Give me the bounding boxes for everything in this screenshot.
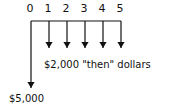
period-label-5: 5 <box>115 3 125 14</box>
periodic-flow-label: $2,000 "then" dollars <box>44 60 151 70</box>
period-label-1: 1 <box>43 3 53 14</box>
period-label-2: 2 <box>61 3 71 14</box>
period-label-0: 0 <box>25 3 35 14</box>
period-label-4: 4 <box>97 3 107 14</box>
initial-flow-label: $5,000 <box>9 94 44 104</box>
period-label-3: 3 <box>79 3 89 14</box>
